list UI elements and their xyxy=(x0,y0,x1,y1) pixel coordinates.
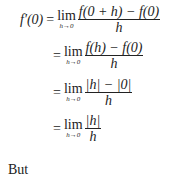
numerator: f(0 + h) − f(0) xyxy=(78,4,160,20)
fraction: f(0 + h) − f(0) h xyxy=(78,4,160,35)
derivation-line-4: = lim h→0 |h| h xyxy=(53,113,101,144)
denominator: h xyxy=(116,20,123,35)
equals-sign: = xyxy=(53,85,61,101)
limit-operator: lim h→0 xyxy=(64,118,83,139)
equals-sign: = xyxy=(46,12,54,28)
derivation-line-3: = lim h→0 |h| − |0| h xyxy=(53,77,132,108)
denominator: h xyxy=(105,93,112,108)
limit-operator: lim h→0 xyxy=(57,9,76,30)
derivation-line-1: f′(0) = lim h→0 f(0 + h) − f(0) h xyxy=(20,4,160,35)
equals-sign: = xyxy=(53,48,61,64)
numerator: |h| − |0| xyxy=(85,77,133,93)
fraction: f(h) − f(0) h xyxy=(85,40,144,71)
denominator: h xyxy=(111,56,118,71)
equals-sign: = xyxy=(53,121,61,137)
fraction: |h| − |0| h xyxy=(85,77,133,108)
fraction: |h| h xyxy=(85,113,102,144)
trailing-text: But xyxy=(8,162,28,178)
derivation-line-2: = lim h→0 f(h) − f(0) h xyxy=(53,40,143,71)
numerator: f(h) − f(0) xyxy=(85,40,144,56)
numerator: |h| xyxy=(85,113,102,129)
limit-operator: lim h→0 xyxy=(64,45,83,66)
denominator: h xyxy=(89,129,96,144)
lhs-derivative: f′(0) xyxy=(20,12,43,28)
limit-operator: lim h→0 xyxy=(64,82,83,103)
